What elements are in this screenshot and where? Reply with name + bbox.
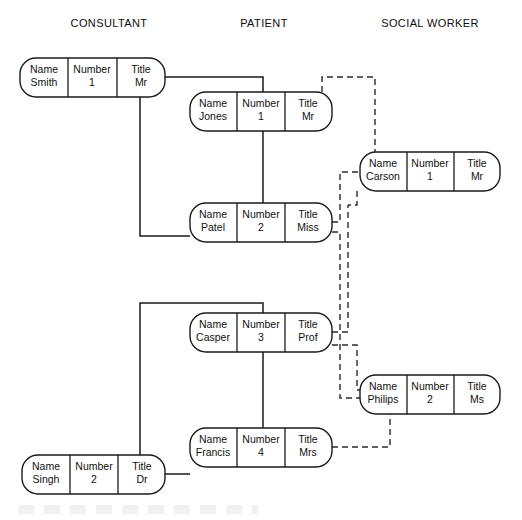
entity-patient-casper[interactable]: Name Casper Number 3 Title Prof bbox=[190, 313, 332, 352]
field-value-title: Miss bbox=[297, 221, 319, 233]
field-label-number: Number bbox=[242, 318, 280, 330]
field-label-number: Number bbox=[73, 63, 111, 75]
link-smith-patel bbox=[140, 97, 190, 236]
field-label-number: Number bbox=[242, 208, 280, 220]
field-label-title: Title bbox=[298, 97, 318, 109]
field-label-number: Number bbox=[242, 97, 280, 109]
field-label-name: Name bbox=[199, 97, 227, 109]
column-header-patient: PATIENT bbox=[240, 17, 288, 29]
link-patel-philips bbox=[332, 232, 360, 398]
field-value-title: Mr bbox=[302, 110, 315, 122]
link-carson-bus bbox=[348, 191, 357, 205]
field-value-number: 3 bbox=[258, 331, 264, 343]
field-label-name: Name bbox=[32, 460, 60, 472]
entity-patient-francis[interactable]: Name Francis Number 4 Title Mrs bbox=[190, 428, 332, 467]
field-value-title: Dr bbox=[136, 473, 148, 485]
entity-social-worker-philips[interactable]: Name Philips Number 2 Title Ms bbox=[360, 375, 500, 414]
field-value-number: 1 bbox=[89, 76, 95, 88]
field-value-number: 2 bbox=[258, 221, 264, 233]
link-layer bbox=[140, 77, 390, 474]
column-header-consultant: CONSULTANT bbox=[71, 17, 148, 29]
occurrence-diagram: CONSULTANT PATIENT SOCIAL WORKER bbox=[0, 0, 522, 520]
field-value-name: Singh bbox=[33, 473, 60, 485]
field-label-number: Number bbox=[411, 380, 449, 392]
field-label-name: Name bbox=[30, 63, 58, 75]
field-value-name: Francis bbox=[196, 446, 230, 458]
field-value-title: Prof bbox=[298, 331, 317, 343]
field-value-number: 1 bbox=[427, 170, 433, 182]
field-label-title: Title bbox=[298, 433, 318, 445]
field-value-name: Jones bbox=[199, 110, 227, 122]
field-label-number: Number bbox=[411, 157, 449, 169]
field-value-number: 2 bbox=[91, 473, 97, 485]
field-label-title: Title bbox=[467, 157, 487, 169]
field-label-name: Name bbox=[369, 157, 397, 169]
field-label-title: Title bbox=[298, 208, 318, 220]
field-label-title: Title bbox=[132, 460, 152, 472]
field-label-name: Name bbox=[199, 208, 227, 220]
field-value-name: Casper bbox=[196, 331, 230, 343]
field-value-number: 2 bbox=[427, 393, 433, 405]
field-label-name: Name bbox=[369, 380, 397, 392]
field-value-number: 4 bbox=[258, 446, 264, 458]
field-label-title: Title bbox=[467, 380, 487, 392]
entity-social-worker-carson[interactable]: Name Carson Number 1 Title Mr bbox=[360, 152, 500, 191]
field-label-name: Name bbox=[199, 318, 227, 330]
field-label-number: Number bbox=[75, 460, 113, 472]
page-artifact-strip bbox=[18, 505, 258, 514]
field-value-name: Philips bbox=[368, 393, 399, 405]
column-header-social-worker: SOCIAL WORKER bbox=[381, 17, 479, 29]
field-label-title: Title bbox=[298, 318, 318, 330]
field-label-name: Name bbox=[199, 433, 227, 445]
entity-consultant-smith[interactable]: Name Smith Number 1 Title Mr bbox=[20, 58, 165, 97]
field-value-number: 1 bbox=[258, 110, 264, 122]
link-smith-jones bbox=[165, 77, 263, 92]
field-value-title: Mr bbox=[135, 76, 148, 88]
link-francis-philips bbox=[332, 414, 390, 447]
entity-patient-patel[interactable]: Name Patel Number 2 Title Miss bbox=[190, 203, 332, 242]
field-value-name: Patel bbox=[201, 221, 225, 233]
field-value-name: Smith bbox=[31, 76, 58, 88]
field-value-name: Carson bbox=[366, 170, 400, 182]
field-value-title: Mrs bbox=[299, 446, 317, 458]
field-label-number: Number bbox=[242, 433, 280, 445]
field-label-title: Title bbox=[131, 63, 151, 75]
entity-consultant-singh[interactable]: Name Singh Number 2 Title Dr bbox=[22, 455, 165, 494]
link-patel-carson bbox=[332, 172, 360, 222]
link-casper-philips bbox=[332, 345, 360, 390]
field-value-title: Ms bbox=[470, 393, 484, 405]
entity-patient-jones[interactable]: Name Jones Number 1 Title Mr bbox=[190, 92, 332, 131]
field-value-title: Mr bbox=[471, 170, 484, 182]
